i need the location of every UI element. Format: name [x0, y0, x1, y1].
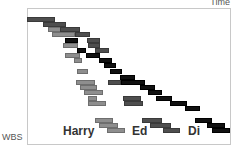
- task-bar: [104, 63, 116, 68]
- wbs-axis-label: WBS: [2, 132, 23, 142]
- task-bar: [75, 32, 90, 37]
- task-bar: [107, 128, 125, 133]
- resource-label-harry: Harry: [63, 124, 94, 138]
- task-bar: [185, 106, 200, 111]
- task-bar: [86, 53, 100, 58]
- task-bar: [212, 128, 230, 133]
- task-bar: [84, 90, 103, 95]
- time-axis-label: Time: [210, 0, 230, 7]
- task-bar: [88, 101, 106, 106]
- resource-label-ed: Ed: [132, 124, 147, 138]
- task-bar: [63, 43, 78, 48]
- task-bar: [74, 58, 82, 63]
- task-bar: [110, 69, 122, 74]
- task-bar: [77, 69, 88, 74]
- task-bar: [148, 90, 162, 95]
- task-bar: [52, 32, 75, 37]
- task-bar: [124, 101, 143, 106]
- task-bar: [108, 80, 121, 85]
- task-bar: [163, 128, 180, 133]
- resource-label-di: Di: [188, 124, 200, 138]
